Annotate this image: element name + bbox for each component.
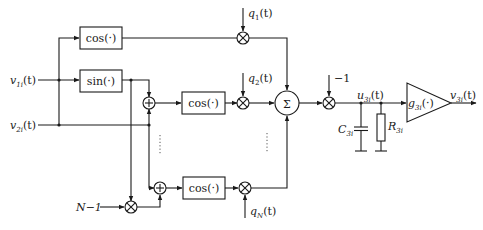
multiplier-q1: [237, 32, 249, 44]
q2-label: q2(t): [248, 72, 273, 87]
block-diagram: v1i(t) v2i(t) N−1 cos(·) sin(·): [0, 0, 483, 230]
svg-text:cos(·): cos(·): [86, 32, 117, 45]
input-n-minus-1-label: N−1: [75, 201, 102, 214]
qn-out-wire: [251, 116, 287, 188]
resistor: [375, 103, 387, 151]
multiplier-minus-one: [323, 97, 335, 109]
q1-label: q1(t): [248, 7, 273, 22]
v1-wires: [38, 38, 79, 125]
input-v2-label: v2i(t): [10, 119, 36, 134]
qn-label: qN(t): [250, 205, 276, 220]
amplifier: g3i(·): [407, 83, 451, 122]
resistor-label: R3i: [387, 120, 403, 135]
sin-out-wires: [122, 78, 149, 201]
cos-block-mid: cos(·): [182, 92, 225, 114]
svg-text:cos(·): cos(·): [188, 97, 219, 110]
svg-text:cos(·): cos(·): [189, 182, 220, 195]
svg-text:Σ: Σ: [283, 98, 291, 111]
cos-block-bottom: cos(·): [183, 177, 225, 199]
svg-text:g3i(·): g3i(·): [408, 97, 434, 112]
multiplier-n-minus-1: [125, 201, 137, 213]
multiplier-q2: [237, 97, 249, 109]
input-v1-label: v1i(t): [10, 74, 36, 89]
capacitor: [354, 103, 368, 151]
cos-block-top: cos(·): [80, 27, 122, 49]
sin-block: sin(·): [80, 70, 122, 92]
output-label: v3i(t): [450, 89, 476, 104]
n-minus-1-out-wire: [137, 195, 160, 207]
capacitor-label: C3i: [338, 123, 353, 138]
multiplier-qn: [239, 182, 251, 194]
adder-n: [154, 182, 166, 194]
v2-wires: [38, 109, 154, 188]
svg-text:sin(·): sin(·): [87, 75, 115, 88]
summation-node: Σ: [275, 91, 299, 115]
adder-1: [143, 97, 155, 109]
minus-one-label: −1: [334, 72, 350, 85]
